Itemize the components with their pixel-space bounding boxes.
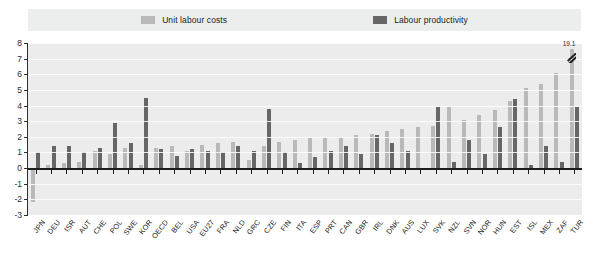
y-axis-tick-mark xyxy=(24,106,28,107)
bar-unit-labour-costs-SVK xyxy=(431,126,435,168)
x-axis-tick-mark xyxy=(528,170,529,174)
bar-unit-labour-costs-MEX xyxy=(539,84,543,168)
bar-group xyxy=(243,43,258,215)
x-axis-tick-mark xyxy=(190,170,191,174)
gridline xyxy=(28,121,582,122)
y-axis-tick-4: 4 xyxy=(17,101,22,110)
bar-labour-productivity-CAN xyxy=(344,146,348,168)
bar-unit-labour-costs-ITA xyxy=(293,140,297,168)
x-axis-tick-mark xyxy=(482,170,483,174)
bar-group xyxy=(336,43,351,215)
x-axis-label-JPN: JPN xyxy=(31,218,47,235)
x-axis-label-CHE: CHE xyxy=(92,218,109,236)
y-axis-tick-mark xyxy=(24,184,28,185)
x-axis-label-IRL: IRL xyxy=(371,218,385,233)
bar-labour-productivity-SVN xyxy=(467,140,471,168)
legend-swatch-unit-labour-costs xyxy=(141,16,155,24)
bar-unit-labour-costs-CZE xyxy=(262,146,266,168)
y-axis-tick-7: 7 xyxy=(17,54,22,63)
x-axis-label-SVK: SVK xyxy=(431,218,447,235)
x-axis-label-POL: POL xyxy=(107,218,123,235)
bar-labour-productivity-SWE xyxy=(129,143,133,168)
bar-group xyxy=(397,43,412,215)
x-axis-tick-mark xyxy=(251,170,252,174)
x-axis-tick-mark xyxy=(374,170,375,174)
x-axis-label-SVN: SVN xyxy=(461,218,478,236)
x-axis-label-DNK: DNK xyxy=(384,218,401,236)
x-axis-label-SWE: SWE xyxy=(122,218,140,237)
x-axis-tick-mark xyxy=(66,170,67,174)
bar-labour-productivity-BEL xyxy=(175,156,179,169)
bar-unit-labour-costs-EU27 xyxy=(200,145,204,168)
legend-swatch-labour-productivity xyxy=(373,16,387,24)
bar-group xyxy=(259,43,274,215)
x-axis-label-CZE: CZE xyxy=(261,218,277,235)
bar-labour-productivity-KOR xyxy=(144,98,148,168)
x-axis-category-labels: JPNDEUISRAUTCHEPOLSWEKOROECDBELUSAEU27FR… xyxy=(27,218,581,261)
x-axis-label-ESP: ESP xyxy=(308,218,324,235)
x-axis-tick-mark xyxy=(159,170,160,174)
bar-group xyxy=(367,43,382,215)
y-axis-tick-mark xyxy=(24,152,28,153)
bar-labour-productivity-HUN xyxy=(498,127,502,168)
y-axis-tick-3: 3 xyxy=(17,117,22,126)
bar-group xyxy=(490,43,505,215)
bar-unit-labour-costs-TUR xyxy=(570,49,574,168)
bar-unit-labour-costs-ISL xyxy=(524,88,528,168)
bar-labour-productivity-ISR xyxy=(67,146,71,168)
bar-labour-productivity-GRC xyxy=(252,151,256,168)
bar-group xyxy=(520,43,535,215)
bar-group xyxy=(120,43,135,215)
plot-area: 19.1 xyxy=(27,43,582,215)
x-axis-tick-mark xyxy=(297,170,298,174)
y-axis-tick-neg3: -3 xyxy=(14,211,22,220)
gridline xyxy=(28,199,582,200)
x-axis-label-BEL: BEL xyxy=(170,218,186,235)
bar-unit-labour-costs-IRL xyxy=(370,134,374,168)
bar-labour-productivity-NLD xyxy=(236,146,240,168)
zero-baseline xyxy=(28,168,582,170)
y-axis-tick-neg1: -1 xyxy=(14,179,22,188)
y-axis-tick-2: 2 xyxy=(17,133,22,142)
bar-labour-productivity-GBR xyxy=(359,154,363,168)
y-axis-tick-1: 1 xyxy=(17,148,22,157)
bar-group xyxy=(320,43,335,215)
bar-unit-labour-costs-USA xyxy=(185,151,189,168)
x-axis-tick-mark xyxy=(574,170,575,174)
data-label-tur-value: 19.1 xyxy=(563,40,576,47)
bar-labour-productivity-ESP xyxy=(313,157,317,168)
y-axis-tick-mark xyxy=(24,137,28,138)
x-axis-tick-mark xyxy=(282,170,283,174)
bar-group xyxy=(213,43,228,215)
x-axis-label-HUN: HUN xyxy=(491,218,508,236)
gridline xyxy=(28,43,582,44)
x-axis-label-GRC: GRC xyxy=(245,218,262,237)
bar-unit-labour-costs-FRA xyxy=(216,143,220,168)
x-axis-tick-mark xyxy=(544,170,545,174)
x-axis-label-LUX: LUX xyxy=(415,218,431,235)
x-axis-label-EST: EST xyxy=(508,218,524,235)
x-axis-label-NOR: NOR xyxy=(476,218,493,237)
y-axis-tick-6: 6 xyxy=(17,70,22,79)
bar-group xyxy=(167,43,182,215)
x-axis-tick-mark xyxy=(220,170,221,174)
chart-root: Unit labour costs Labour productivity 87… xyxy=(0,0,602,261)
bar-labour-productivity-MEX xyxy=(544,146,548,168)
legend-item-labour-productivity: Labour productivity xyxy=(373,15,468,25)
gridline xyxy=(28,184,582,185)
bar-group xyxy=(459,43,474,215)
bar-unit-labour-costs-GRC xyxy=(247,160,251,168)
bar-group xyxy=(151,43,166,215)
bar-group xyxy=(59,43,74,215)
gridline xyxy=(28,90,582,91)
y-axis-tick-0: 0 xyxy=(17,164,22,173)
bar-group xyxy=(536,43,551,215)
bar-labour-productivity-CZE xyxy=(267,109,271,168)
x-axis-label-GBR: GBR xyxy=(353,218,370,236)
x-axis-tick-mark xyxy=(143,170,144,174)
bar-labour-productivity-FRA xyxy=(221,152,225,168)
y-axis-tick-mark xyxy=(24,90,28,91)
bar-labour-productivity-CHE xyxy=(98,148,102,168)
x-axis-tick-mark xyxy=(236,170,237,174)
bar-group xyxy=(305,43,320,215)
